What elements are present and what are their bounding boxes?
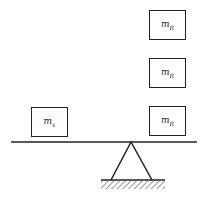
right-mass-box-bottom: mR [149,106,186,136]
fulcrum [111,142,152,180]
right-mass-label: mR [161,19,174,31]
right-mass-label: mR [161,115,174,127]
left-mass-box: mx [31,107,68,137]
left-mass-label: mx [44,116,56,128]
right-mass-box-top: mR [149,10,186,40]
ground-hatch [101,181,165,189]
right-mass-label: mR [161,67,174,79]
right-mass-box-middle: mR [149,58,186,88]
